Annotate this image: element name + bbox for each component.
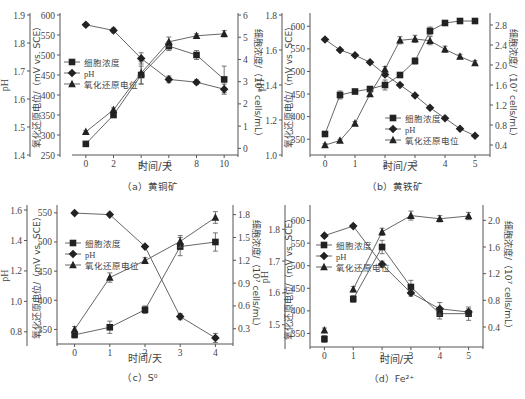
cells-axis-label: 细胞浓度/（10⁷ cells/mL） (503, 221, 514, 333)
cells-axis-label: 细胞浓度/（10⁷ cells/mL） (508, 29, 519, 141)
orp-axis-label: 氧化还原电位/（mV vs. SCE） (31, 212, 42, 338)
ph-axis-label: pH (0, 79, 10, 91)
data-point-triangle (351, 119, 359, 127)
cells-axis-tick-label: 2 (243, 99, 248, 109)
legend-marker-square (321, 242, 328, 249)
cells-axis-tick-label: 1.2 (488, 269, 500, 279)
x-tick-label: 4 (213, 348, 218, 358)
chart-panel-d: 012345时间/天（d）Fe²⁺1.51.61.71.835040045050… (259, 205, 514, 384)
cells-axis-tick-label: 6 (243, 11, 248, 21)
data-point-triangle (220, 30, 228, 38)
ph-axis-tick-label: 1.0 (10, 297, 22, 307)
chart-panel-a: 0246810时间/天（a）黄铜矿1.41.51.61.71.81.925030… (0, 11, 264, 193)
data-point-triangle (176, 237, 184, 245)
legend-label: 细胞浓度 (405, 114, 441, 124)
legend-marker-square (390, 115, 397, 122)
data-point-triangle (465, 212, 473, 220)
panel-caption: （a）黄铜矿 (122, 181, 178, 192)
data-point-triangle (441, 45, 449, 53)
cells-axis-tick-label: 0.9 (238, 279, 250, 289)
series-square (322, 18, 479, 138)
orp-axis-label: 氧化还原电位/（mV vs. SCE） (31, 22, 42, 148)
data-point-square (321, 336, 328, 343)
x-axis-label: 时间/天 (128, 352, 161, 364)
data-point-square (412, 58, 419, 65)
orp-axis-tick-label: 300 (41, 131, 56, 141)
data-point-square (212, 239, 219, 246)
ph-axis-tick-label: 1.4 (10, 236, 22, 246)
data-point-square (221, 76, 228, 83)
data-point-triangle (321, 326, 329, 334)
data-point-square (427, 28, 434, 35)
legend-label: 氧化还原电位 (336, 263, 390, 273)
orp-axis-label: 氧化还原电位/（mV vs. SCE） (283, 22, 294, 148)
legend-label: pH (84, 69, 94, 79)
cells-axis-tick-label: 2.0 (488, 216, 500, 226)
x-tick-label: 4 (443, 159, 448, 169)
legend-marker-diamond (68, 69, 77, 78)
ph-axis-tick-label: 1.6 (13, 95, 25, 105)
x-tick-label: 10 (219, 159, 229, 169)
orp-axis-tick-label: 600 (41, 11, 56, 21)
data-point-square (472, 18, 479, 25)
series-diamond (70, 209, 219, 343)
cells-axis-tick-label: 1.6 (495, 81, 507, 91)
legend-marker-diamond (320, 252, 329, 261)
data-point-square (322, 131, 329, 138)
series-line (75, 242, 216, 335)
ph-axis-tick-label: 1.8 (13, 39, 25, 49)
data-point-square (457, 18, 464, 25)
data-point-triangle (381, 65, 389, 73)
cells-axis-tick-label: 0.4 (495, 141, 507, 151)
legend-marker-diamond (69, 250, 78, 259)
ph-axis-tick-label: 1.2 (265, 116, 277, 126)
cells-axis-tick-label: 1 (243, 122, 248, 132)
cells-axis-tick-label: 1.5 (238, 233, 250, 243)
data-point-diamond (70, 209, 79, 218)
data-point-square (379, 244, 386, 251)
data-point-diamond (441, 114, 450, 123)
cells-axis-tick-label: 2.0 (495, 61, 507, 71)
data-point-triangle (82, 128, 90, 136)
ph-axis-label: pH (0, 269, 10, 281)
data-point-square (83, 141, 90, 148)
data-point-triangle (471, 59, 479, 67)
data-point-diamond (349, 222, 358, 231)
ph-axis-tick-label: 1.6 (10, 206, 22, 216)
orp-axis-tick-label: 450 (41, 71, 56, 81)
legend-label: pH (336, 252, 346, 262)
legend-marker-triangle (68, 80, 76, 88)
ph-axis-tick-label: 1.5 (13, 123, 25, 133)
x-tick-label: 0 (323, 159, 328, 169)
legend: 细胞浓度pH氧化还原电位 (65, 239, 139, 271)
cells-axis-tick-label: 1.8 (238, 210, 250, 220)
data-point-diamond (211, 334, 220, 343)
data-point-diamond (192, 78, 201, 87)
data-point-square (442, 20, 449, 27)
ph-axis-tick-label: 1.6 (265, 46, 277, 56)
x-tick-label: 1 (351, 351, 356, 361)
data-point-square (350, 296, 357, 303)
cells-axis-tick-label: 5 (243, 33, 248, 43)
data-point-diamond (176, 312, 185, 321)
ph-axis-tick-label: 1.2 (10, 266, 22, 276)
x-tick-label: 0 (322, 351, 327, 361)
data-point-triangle (141, 256, 149, 264)
panel-caption: （c）S⁰ (122, 372, 157, 383)
cells-axis-tick-label: 0 (243, 144, 248, 154)
ph-axis-tick-label: 1.4 (13, 151, 25, 161)
data-point-triangle (407, 211, 415, 219)
legend-label: pH (85, 250, 95, 260)
ph-axis-tick-label: 1.9 (13, 11, 25, 21)
legend-label: 氧化还原电位 (405, 136, 459, 146)
data-point-diamond (165, 75, 174, 84)
cells-axis-tick-label: 2.4 (495, 41, 507, 51)
series-line (353, 216, 468, 290)
legend-marker-triangle (389, 136, 397, 144)
data-point-triangle (106, 273, 114, 281)
cells-axis-tick-label: 0.8 (488, 296, 500, 306)
data-point-diamond (396, 81, 405, 90)
orp-axis-tick-label: 250 (41, 151, 56, 161)
data-point-square (142, 306, 149, 313)
x-tick-label: 1 (353, 159, 358, 169)
